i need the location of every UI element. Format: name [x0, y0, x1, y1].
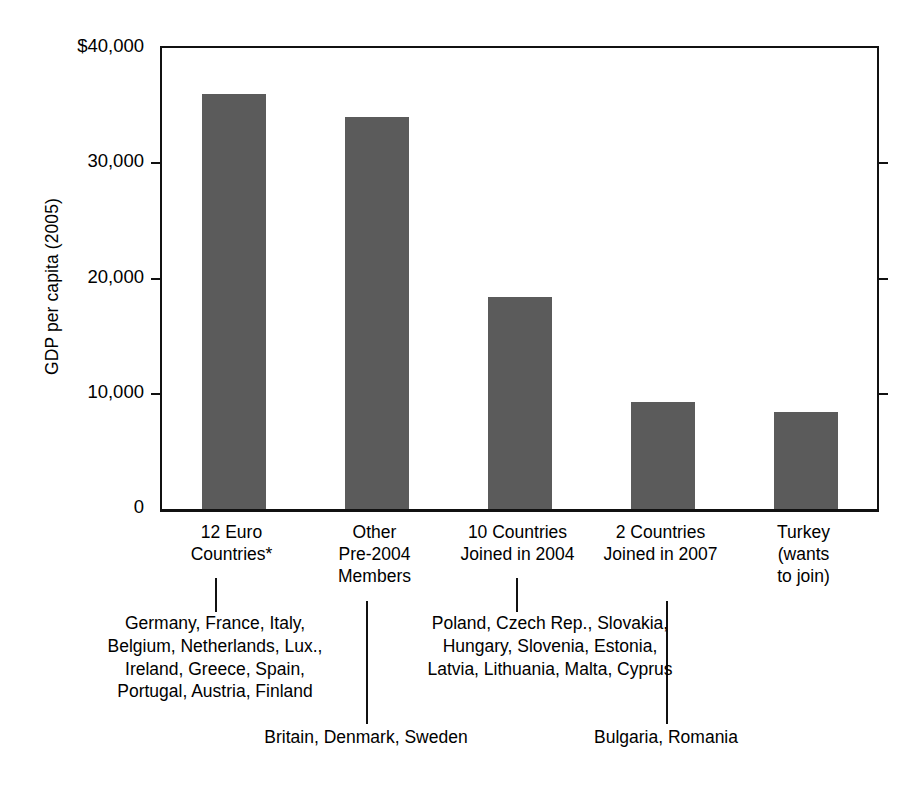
leader-line-euro-countries	[215, 578, 217, 612]
bar-12-euro-countries	[202, 94, 266, 509]
plot-inner	[162, 48, 877, 509]
y-tick-label-30000: 30,000	[26, 152, 144, 171]
y-tick-mark-right-10000	[877, 393, 888, 395]
y-tick-mark-right-30000	[877, 162, 888, 164]
bar-joined-2007	[631, 402, 695, 509]
plot-area	[160, 46, 879, 512]
y-tick-mark-30000	[151, 162, 162, 164]
chart-canvas: GDP per capita (2005) $40,000 30,000 20,…	[0, 0, 898, 792]
annotation-joined-2007: Bulgaria, Romania	[566, 726, 766, 749]
y-tick-mark-right-20000	[877, 278, 888, 280]
y-tick-mark-20000	[151, 278, 162, 280]
bar-joined-2004	[488, 297, 552, 509]
y-tick-label-10000: 10,000	[26, 383, 144, 402]
bar-other-pre-2004	[345, 117, 409, 509]
annotation-joined-2004: Poland, Czech Rep., Slovakia, Hungary, S…	[375, 612, 725, 680]
y-tick-mark-10000	[151, 393, 162, 395]
bar-turkey	[774, 412, 838, 509]
annotation-other-pre2004: Britain, Denmark, Sweden	[206, 726, 526, 749]
y-tick-label-0: 0	[26, 498, 144, 517]
y-tick-label-40000: $40,000	[26, 37, 144, 56]
annotation-euro-countries: Germany, France, Italy, Belgium, Netherl…	[50, 612, 380, 703]
leader-line-joined-2004	[516, 578, 518, 612]
y-tick-label-20000: 20,000	[26, 268, 144, 287]
x-label-turkey: Turkey (wants to join)	[714, 521, 894, 587]
